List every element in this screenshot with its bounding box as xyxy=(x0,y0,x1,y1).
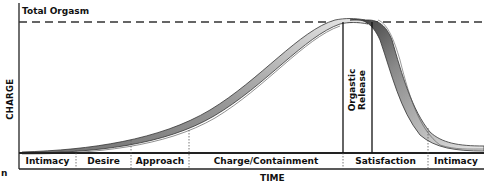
phase-charge-containment: Charge/Containment xyxy=(189,157,343,166)
stray-glyph: n xyxy=(1,169,7,178)
rising-band-highlight xyxy=(22,26,340,154)
orgasm-curve-diagram: Total Orgasm CHARGE Orgastic Release Int… xyxy=(0,0,484,185)
phase-satisfaction: Satisfaction xyxy=(343,157,428,166)
y-axis-label: CHARGE xyxy=(6,79,15,120)
total-orgasm-label: Total Orgasm xyxy=(22,7,89,16)
x-axis-label: TIME xyxy=(260,174,285,183)
phase-intimacy-start: Intimacy xyxy=(19,157,76,166)
phase-intimacy-end: Intimacy xyxy=(428,157,484,166)
phase-approach: Approach xyxy=(131,157,189,166)
orgastic-release-label: Orgastic Release xyxy=(347,55,367,125)
falling-band-highlight xyxy=(378,20,484,149)
phase-desire: Desire xyxy=(76,157,131,166)
falling-band xyxy=(350,20,484,151)
